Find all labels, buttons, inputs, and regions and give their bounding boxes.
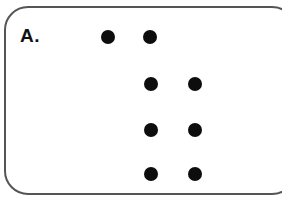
- dot: [188, 123, 202, 137]
- panel-label: A.: [20, 25, 40, 47]
- dot: [144, 167, 158, 181]
- dot: [188, 77, 202, 91]
- dot: [144, 77, 158, 91]
- dot: [188, 167, 202, 181]
- dot: [144, 123, 158, 137]
- dot: [143, 30, 157, 44]
- dot: [101, 30, 115, 44]
